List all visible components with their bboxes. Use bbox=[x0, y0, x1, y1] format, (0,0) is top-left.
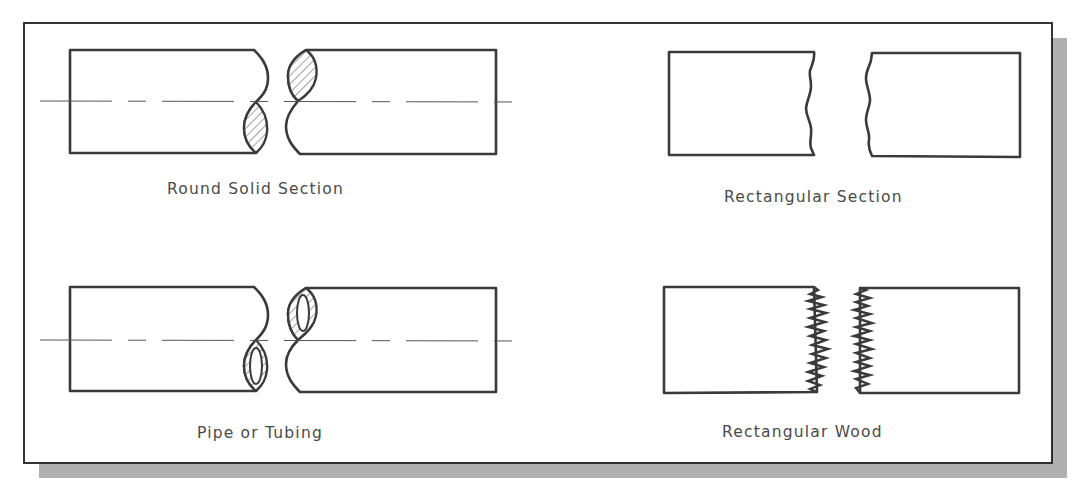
pipe-right-bore bbox=[297, 295, 309, 331]
caption-rectangular-wood: Rectangular Wood bbox=[722, 423, 883, 441]
caption-pipe-or-tubing: Pipe or Tubing bbox=[197, 424, 323, 442]
pipe-left-bar bbox=[70, 287, 268, 391]
rectangular-left-bar bbox=[669, 52, 814, 155]
pipe-left-bore bbox=[250, 348, 262, 384]
wood-right-bar bbox=[860, 288, 1019, 393]
rectangular-right-bar bbox=[866, 53, 1020, 157]
pipe-right-bar bbox=[286, 288, 496, 392]
wood-left-bar bbox=[664, 287, 817, 393]
caption-round-solid-section: Round Solid Section bbox=[167, 180, 344, 198]
caption-rectangular-section: Rectangular Section bbox=[724, 188, 903, 206]
conventional-break-lines-figure: Round Solid Section Rectangular Section … bbox=[0, 0, 1081, 491]
